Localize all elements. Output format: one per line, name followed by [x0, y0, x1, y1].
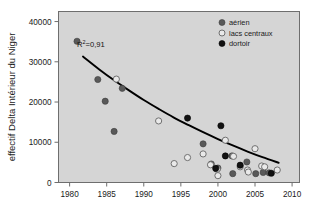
y-tick-label: 20000: [29, 98, 52, 107]
data-point-dortoir: [237, 162, 243, 168]
data-point-dortoir: [213, 165, 219, 171]
data-point-lacs-centraux: [156, 118, 162, 124]
data-point-lacs-centraux: [171, 160, 177, 166]
y-tick-label: 0: [47, 179, 52, 188]
r-squared-text: R2=0,91: [77, 39, 105, 49]
data-point-lacs-centraux: [222, 137, 228, 143]
data-point-aérien: [244, 159, 250, 165]
legend-marker-dortoir: [219, 41, 225, 47]
r-value: =0,91: [85, 40, 104, 49]
data-point-aérien: [230, 171, 236, 177]
x-axis-ticks: 1980198519901995200020052010: [61, 183, 302, 199]
legend-label-dortoir: dortoir: [229, 39, 250, 48]
data-point-lacs-centraux: [262, 164, 268, 170]
data-point-lacs-centraux: [245, 169, 251, 175]
data-point-dortoir: [218, 123, 224, 129]
data-point-aérien: [119, 85, 125, 91]
r-squared-annotation: R2=0,91: [77, 39, 105, 49]
data-point-lacs-centraux: [200, 151, 206, 157]
y-axis-ticks: 010000200003000040000: [29, 18, 59, 188]
legend-marker-lacs-centraux: [219, 30, 225, 36]
data-point-aérien: [95, 76, 101, 82]
data-point-aérien: [253, 171, 259, 177]
legend-marker-aérien: [219, 20, 225, 26]
x-tick-label: 2005: [246, 190, 265, 199]
x-tick-label: 1980: [61, 190, 80, 199]
data-point-lacs-centraux: [274, 167, 280, 173]
x-tick-label: 2010: [283, 190, 302, 199]
x-tick-label: 1985: [98, 190, 117, 199]
x-tick-label: 2000: [209, 190, 228, 199]
data-point-lacs-centraux: [230, 153, 236, 159]
y-tick-label: 30000: [29, 58, 52, 67]
x-tick-label: 1995: [172, 190, 191, 199]
data-point-lacs-centraux: [215, 173, 221, 179]
data-point-lacs-centraux: [184, 154, 190, 160]
data-point-dortoir: [184, 115, 190, 121]
x-tick-label: 1990: [135, 190, 154, 199]
y-axis-label: effectif Delta Intérieur du Niger: [6, 33, 17, 162]
data-point-lacs-centraux: [113, 76, 119, 82]
legend-label-lacs-centraux: lacs centraux: [229, 29, 273, 38]
chart-figure: 010000200003000040000 198019851990199520…: [0, 0, 312, 213]
data-point-aérien: [200, 141, 206, 147]
data-point-dortoir: [222, 153, 228, 159]
data-point-lacs-centraux: [252, 146, 258, 152]
scatter-plot: 010000200003000040000 198019851990199520…: [0, 0, 312, 213]
y-tick-label: 10000: [29, 138, 52, 147]
data-point-dortoir: [268, 170, 274, 176]
data-point-aérien: [102, 98, 108, 104]
legend-label-aérien: aérien: [229, 18, 250, 27]
data-point-aérien: [111, 128, 117, 134]
y-tick-label: 40000: [29, 18, 52, 27]
